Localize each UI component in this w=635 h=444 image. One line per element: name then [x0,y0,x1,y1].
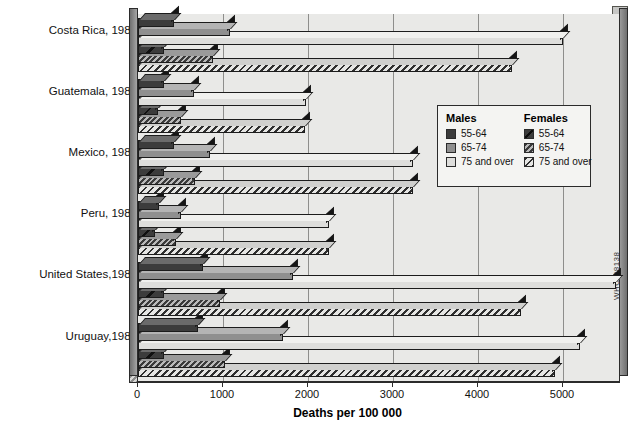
bar-females-55-64-uruguay-1984 [138,350,164,359]
legend-item-males-65-74[interactable]: 65-74 [446,142,514,153]
males-75-over-swatch [446,157,456,167]
bar-males-75-over-united-states-1982 [138,280,616,289]
xtick-label-4000: 4000 [465,388,489,400]
bar-males-55-64-costa-rica-1983 [138,18,174,27]
bar-males-75-over-costa-rica-1983 [138,36,563,45]
bar-males-75-over-uruguay-1984 [138,341,580,350]
bar-males-55-64-peru-1982 [138,201,159,210]
category-label-united-states: United States,1982 [39,269,137,281]
bar-females-55-64-costa-rica-1983 [138,45,164,54]
bar-males-55-64-mexico-1982 [138,140,174,149]
bar-females-65-74-uruguay-1984 [138,359,225,368]
xtick-label-0: 0 [134,388,140,400]
bar-males-65-74-guatemala-1981 [138,88,194,97]
legend-label-males-65-74: 65-74 [461,142,487,153]
xtick-5000 [562,383,563,387]
legend: Males 55-64 65-74 75 and over Females [437,105,591,187]
bar-females-55-64-mexico-1982 [138,167,164,176]
legend-item-males-75-over[interactable]: 75 and over [446,156,514,167]
xtick-1000 [222,383,223,387]
xtick-label-2000: 2000 [295,388,319,400]
x-axis-title: Deaths per 100 000 [0,406,635,420]
xtick-label-1000: 1000 [210,388,234,400]
legend-label-females-75-over: 75 and over [539,156,592,167]
bar-females-75-over-guatemala-1981 [138,124,305,133]
gridline-5000 [563,14,564,381]
bar-males-55-64-guatemala-1981 [138,79,164,88]
bar-males-65-74-uruguay-1984 [138,332,283,341]
legend-label-females-55-64: 55-64 [539,128,565,139]
category-label-guatemala: Guatemala, 1981 [49,86,137,98]
xtick-4000 [477,383,478,387]
legend-heading-males: Males [446,112,514,124]
bar-males-65-74-united-states-1982 [138,271,293,280]
bar-females-75-over-costa-rica-1983 [138,63,512,72]
bar-males-75-over-peru-1982 [138,219,329,228]
legend-item-females-55-64[interactable]: 55-64 [524,128,592,139]
females-55-64-swatch [524,129,534,139]
males-65-74-swatch [446,143,456,153]
bar-females-75-over-united-states-1982 [138,307,521,316]
bar-females-65-74-costa-rica-1983 [138,54,213,63]
legend-column-females: Females 55-64 65-74 75 and over [524,112,592,170]
females-75-over-swatch [524,157,534,167]
legend-label-females-65-74: 65-74 [539,142,565,153]
legend-item-females-65-74[interactable]: 65-74 [524,142,592,153]
legend-label-males-55-64: 55-64 [461,128,487,139]
plot-area [137,14,619,382]
bar-females-65-74-united-states-1982 [138,298,220,307]
bar-females-65-74-peru-1982 [138,237,176,246]
legend-column-males: Males 55-64 65-74 75 and over [446,112,514,170]
category-label-costa-rica: Costa Rica, 1983 [49,25,137,37]
bar-males-55-64-united-states-1982 [138,262,203,271]
plot-right-wall [619,8,628,376]
bar-males-65-74-peru-1982 [138,210,181,219]
bar-females-65-74-mexico-1982 [138,176,195,185]
males-55-64-swatch [446,129,456,139]
xtick-0 [137,383,138,387]
bar-males-55-64-uruguay-1984 [138,323,198,332]
bar-females-75-over-peru-1982 [138,246,329,255]
chart-container: Costa Rica, 1983 Guatemala, 1981 Mexico,… [0,0,635,444]
bar-females-55-64-united-states-1982 [138,289,164,298]
bar-females-55-64-peru-1982 [138,228,155,237]
females-65-74-swatch [524,143,534,153]
legend-label-males-75-over: 75 and over [461,156,514,167]
xtick-label-3000: 3000 [380,388,404,400]
category-label-mexico: Mexico, 1982 [69,147,137,159]
bar-females-65-74-guatemala-1981 [138,115,181,124]
legend-item-females-75-over[interactable]: 75 and over [524,156,592,167]
bar-males-65-74-costa-rica-1983 [138,27,230,36]
category-label-uruguay: Uruguay,1984 [66,331,137,343]
bar-males-65-74-mexico-1982 [138,149,210,158]
legend-item-males-55-64[interactable]: 55-64 [446,128,514,139]
bar-males-75-over-mexico-1982 [138,158,413,167]
xtick-2000 [307,383,308,387]
bar-females-75-over-mexico-1982 [138,185,413,194]
xtick-label-5000: 5000 [550,388,574,400]
bar-females-55-64-guatemala-1981 [138,106,158,115]
xtick-3000 [392,383,393,387]
bar-females-75-over-uruguay-1984 [138,368,555,377]
bar-males-75-over-guatemala-1981 [138,97,306,106]
legend-heading-females: Females [524,112,592,124]
